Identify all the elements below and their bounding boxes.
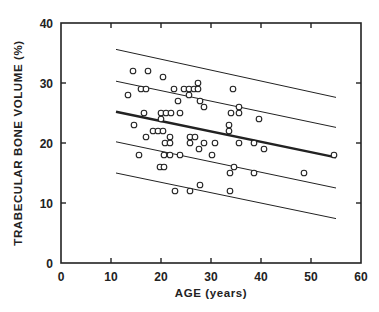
y-tick-label: 20: [40, 137, 54, 151]
x-tick-label: 30: [204, 270, 218, 284]
regression-lines: [116, 49, 336, 218]
x-tick-label: 40: [254, 270, 268, 284]
data-point: [175, 98, 181, 104]
data-point: [171, 86, 177, 92]
data-point: [209, 152, 215, 158]
data-point: [187, 188, 193, 194]
data-point: [177, 152, 183, 158]
trend-line-25sd: [116, 142, 336, 188]
data-point: [231, 164, 237, 170]
data-point: [196, 146, 202, 152]
data-point: [125, 92, 131, 98]
data-point: [228, 110, 234, 116]
data-point: [226, 128, 232, 134]
data-point: [158, 116, 164, 122]
y-axis-title: TRABECULAR BONE VOLUME (%): [12, 40, 24, 245]
data-point: [187, 140, 193, 146]
data-point: [227, 188, 233, 194]
trend-line-regression: [116, 112, 336, 158]
y-tick-label: 0: [46, 257, 53, 271]
data-point: [236, 104, 242, 110]
plot-frame: [61, 23, 361, 263]
data-point: [251, 170, 257, 176]
x-axis-title: AGE (years): [175, 287, 247, 299]
data-point: [167, 152, 173, 158]
scatter-chart: 0102030405060010203040 AGE (years) TRABE…: [0, 0, 379, 312]
data-point: [236, 110, 242, 116]
data-point: [256, 116, 262, 122]
x-tick-label: 0: [58, 270, 65, 284]
data-point: [143, 86, 149, 92]
data-point: [212, 140, 218, 146]
x-tick-label: 20: [154, 270, 168, 284]
data-point: [172, 188, 178, 194]
data-point: [130, 68, 136, 74]
data-point: [201, 140, 207, 146]
data-point: [186, 92, 192, 98]
y-tick-label: 10: [40, 197, 54, 211]
axis-ticks: 0102030405060010203040: [40, 17, 368, 285]
data-point: [143, 134, 149, 140]
data-point: [251, 140, 257, 146]
data-point: [160, 74, 166, 80]
y-tick-label: 30: [40, 77, 54, 91]
data-point: [160, 128, 166, 134]
data-point: [261, 146, 267, 152]
data-point: [145, 68, 151, 74]
data-point: [230, 86, 236, 92]
data-point: [227, 170, 233, 176]
data-point: [195, 80, 201, 86]
data-point: [141, 110, 147, 116]
data-point: [195, 86, 201, 92]
y-tick-label: 40: [40, 17, 54, 31]
x-tick-label: 50: [304, 270, 318, 284]
trend-line-5: [116, 173, 336, 219]
x-tick-label: 10: [104, 270, 118, 284]
data-point: [131, 122, 137, 128]
data-point: [197, 98, 203, 104]
data-point: [167, 140, 173, 146]
data-point: [226, 122, 232, 128]
data-points: [125, 68, 337, 194]
data-point: [177, 110, 183, 116]
x-tick-label: 60: [354, 270, 368, 284]
data-point: [331, 152, 337, 158]
data-point: [167, 134, 173, 140]
data-point: [236, 140, 242, 146]
data-point: [301, 170, 307, 176]
data-point: [161, 152, 167, 158]
data-point: [197, 182, 203, 188]
data-point: [136, 152, 142, 158]
data-point: [168, 110, 174, 116]
data-point: [161, 164, 167, 170]
plot-border: [61, 23, 361, 263]
data-point: [192, 134, 198, 140]
data-point: [201, 104, 207, 110]
